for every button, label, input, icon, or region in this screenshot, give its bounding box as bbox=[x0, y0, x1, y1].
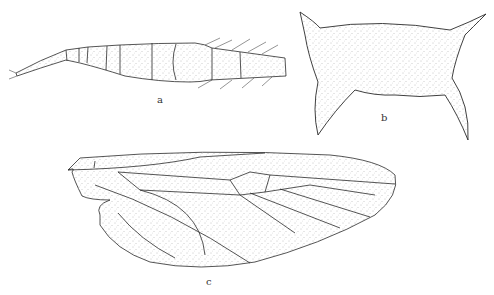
panel-label-a: a bbox=[157, 94, 163, 105]
wing-drawing bbox=[68, 152, 396, 267]
antenna-drawing bbox=[9, 38, 286, 89]
panel-label-b: b bbox=[381, 112, 387, 123]
body-segment-drawing bbox=[300, 12, 486, 140]
panel-label-c: c bbox=[206, 276, 212, 287]
figure-canvas bbox=[0, 0, 494, 295]
